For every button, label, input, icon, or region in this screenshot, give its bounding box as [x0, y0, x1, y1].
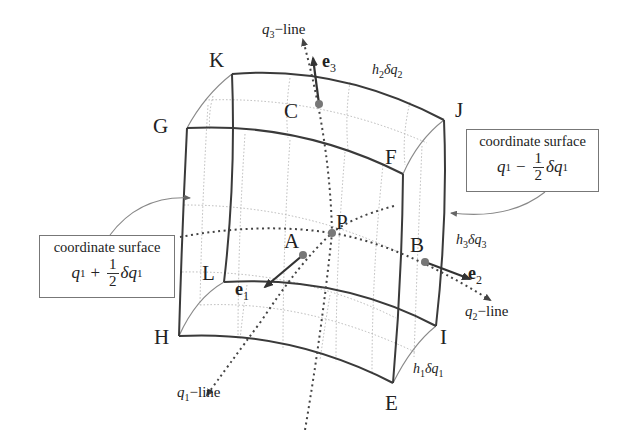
q3-var: q: [262, 21, 270, 37]
point-label-P: P: [336, 212, 348, 233]
right-sub: 1: [506, 161, 512, 173]
diagram-canvas: [0, 0, 629, 430]
e1-label: e1: [235, 280, 249, 302]
q1-suffix: −line: [190, 384, 221, 400]
h3-dq3-label: h3δq3: [456, 233, 487, 250]
edge-G-K: [187, 74, 232, 128]
left-callout-leader: [110, 198, 190, 235]
h1-q: q: [432, 361, 439, 376]
q1-line-label: q1−line: [177, 385, 220, 403]
edge-L-I: [224, 281, 436, 326]
h2-qsub: 2: [398, 69, 403, 80]
e1-sub: 1: [243, 289, 249, 303]
point-label-A: A: [284, 231, 299, 252]
edge-F-E: [393, 174, 403, 383]
e2-label: e2: [468, 264, 482, 286]
q1-var: q: [177, 384, 185, 400]
vertex-label-G: G: [153, 116, 168, 137]
right-delta: δ: [546, 157, 554, 177]
edge-H-L: [179, 282, 224, 336]
right-fraction: 12: [533, 151, 545, 184]
right-coordinate-surface-callout: coordinate surface q1 − 12 δq1: [466, 129, 599, 192]
right-callout-expression: q1 − 12 δq1: [467, 151, 598, 184]
h3-h: h: [456, 232, 463, 247]
right-callout-title: coordinate surface: [467, 133, 598, 150]
left-delta: δ: [121, 263, 129, 283]
vertex-label-J: J: [455, 100, 463, 121]
vertex-label-L: L: [202, 263, 215, 284]
right-callout-leader: [451, 192, 545, 214]
q2-line-label: q2−line: [465, 304, 508, 322]
edge-G-H: [179, 128, 187, 336]
e3-sub: 3: [330, 61, 336, 75]
left-fraction: 12: [107, 257, 119, 290]
left-var2: q: [129, 263, 138, 283]
left-den: 2: [109, 274, 117, 290]
point-B: [421, 258, 429, 266]
point-label-B: B: [410, 235, 424, 256]
point-A: [299, 251, 307, 259]
right-var2: q: [554, 157, 563, 177]
q3-line-label: q3−line: [262, 22, 305, 40]
edge-H-E: [179, 335, 393, 383]
callout-leaders: [110, 192, 545, 235]
h1-dq1-label: h1δq1: [413, 362, 444, 379]
e3-label: e3: [322, 52, 336, 74]
right-sub2: 1: [563, 161, 569, 173]
point-label-C: C: [284, 101, 298, 122]
vertex-label-K: K: [209, 50, 224, 71]
h2-h: h: [372, 62, 379, 77]
right-op: −: [516, 157, 526, 177]
e2-sub: 2: [476, 273, 482, 287]
left-coordinate-surface-callout: coordinate surface q1 + 12 δq1: [39, 235, 175, 298]
h1-qsub: 1: [439, 368, 444, 379]
left-op: +: [91, 263, 101, 283]
h2-q: q: [391, 62, 398, 77]
left-sub2: 1: [137, 267, 143, 279]
left-sub: 1: [80, 267, 86, 279]
edge-J-I: [436, 120, 445, 326]
vertex-label-F: F: [385, 147, 397, 168]
vertex-label-E: E: [385, 393, 398, 414]
right-var: q: [497, 157, 506, 177]
e2-base: e: [468, 263, 476, 283]
left-callout-title: coordinate surface: [40, 239, 174, 256]
e1-base: e: [235, 279, 243, 299]
right-den: 2: [535, 168, 543, 184]
edge-F-J: [403, 120, 444, 174]
surface-grid-lines: [182, 78, 427, 373]
point-C: [315, 100, 323, 108]
e3-base: e: [322, 51, 330, 71]
left-callout-expression: q1 + 12 δq1: [40, 257, 174, 290]
solid-edges: [179, 73, 445, 383]
point-P: [328, 229, 336, 237]
vertex-label-I: I: [440, 327, 447, 348]
edge-K-L: [224, 74, 233, 282]
q2-suffix: −line: [478, 303, 509, 319]
left-num: 1: [107, 257, 119, 274]
edge-G-F: [187, 127, 403, 174]
h2-dq2-label: h2δq2: [372, 63, 403, 80]
h3-q: q: [475, 232, 482, 247]
right-num: 1: [533, 151, 545, 168]
q3-suffix: −line: [275, 21, 306, 37]
volume-element-diagram: K G J F L H I E P A B C e1 e2 e3 q1−line…: [0, 0, 629, 430]
vertex-label-H: H: [154, 327, 169, 348]
q2-var: q: [465, 303, 473, 319]
h1-h: h: [413, 361, 420, 376]
h3-qsub: 3: [482, 239, 487, 250]
left-var: q: [72, 263, 81, 283]
